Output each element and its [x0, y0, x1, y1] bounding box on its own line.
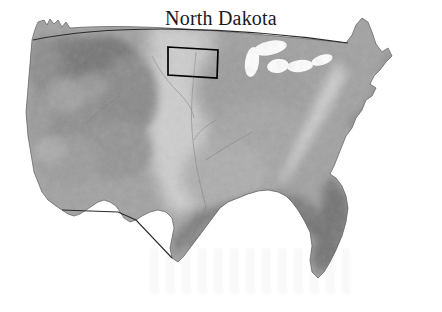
locator-map-figure: North Dakota — [0, 0, 442, 312]
relief-map — [0, 0, 442, 312]
relief-shading — [0, 0, 442, 312]
relief-map-svg — [0, 0, 442, 312]
map-title: North Dakota — [0, 6, 442, 30]
southwestern-border — [62, 210, 172, 258]
